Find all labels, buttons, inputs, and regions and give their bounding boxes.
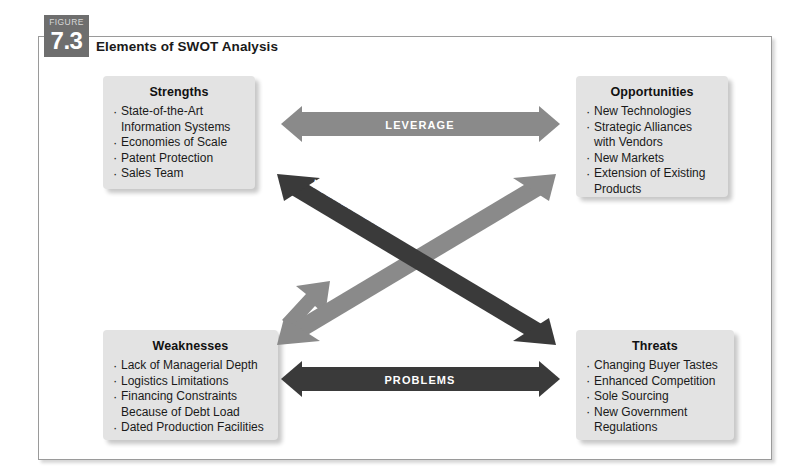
figure-badge-number: 7.3 bbox=[44, 26, 89, 57]
swot-box-opportunities: Opportunities New Technologies Strategic… bbox=[576, 76, 728, 197]
swot-box-strengths: Strengths State-of-the-Art Information S… bbox=[103, 76, 255, 189]
list-item: Financing Constraints Because of Debt Lo… bbox=[113, 389, 272, 420]
swot-figure: FIGURE 7.3 Elements of SWOT Analysis CON… bbox=[0, 0, 809, 471]
list-item: New Markets bbox=[586, 151, 722, 167]
swot-box-weaknesses: Weaknesses Lack of Managerial Depth Logi… bbox=[103, 330, 278, 440]
threats-list: Changing Buyer Tastes Enhanced Competiti… bbox=[576, 358, 734, 436]
threats-title: Threats bbox=[576, 339, 734, 353]
figure-title: Elements of SWOT Analysis bbox=[96, 36, 278, 58]
list-item: Strategic Alliances with Vendors bbox=[586, 120, 722, 151]
list-item: Extension of Existing Products bbox=[586, 166, 722, 197]
list-item: State-of-the-Art Information Systems bbox=[113, 104, 249, 135]
list-item: Changing Buyer Tastes bbox=[586, 358, 728, 374]
list-item: Patent Protection bbox=[113, 151, 249, 167]
list-item: Lack of Managerial Depth bbox=[113, 358, 272, 374]
list-item: Dated Production Facilities bbox=[113, 420, 272, 436]
list-item: Enhanced Competition bbox=[586, 374, 728, 390]
list-item: Economies of Scale bbox=[113, 135, 249, 151]
strengths-title: Strengths bbox=[103, 85, 255, 99]
weaknesses-list: Lack of Managerial Depth Logistics Limit… bbox=[103, 358, 278, 436]
opportunities-title: Opportunities bbox=[576, 85, 728, 99]
list-item: Logistics Limitations bbox=[113, 374, 272, 390]
list-item: New Government Regulations bbox=[586, 405, 728, 436]
strengths-list: State-of-the-Art Information Systems Eco… bbox=[103, 104, 255, 182]
swot-box-threats: Threats Changing Buyer Tastes Enhanced C… bbox=[576, 330, 734, 440]
opportunities-list: New Technologies Strategic Alliances wit… bbox=[576, 104, 728, 197]
list-item: Sales Team bbox=[113, 166, 249, 182]
list-item: New Technologies bbox=[586, 104, 722, 120]
figure-number-badge: FIGURE 7.3 bbox=[44, 15, 89, 57]
weaknesses-title: Weaknesses bbox=[103, 339, 278, 353]
list-item: Sole Sourcing bbox=[586, 389, 728, 405]
